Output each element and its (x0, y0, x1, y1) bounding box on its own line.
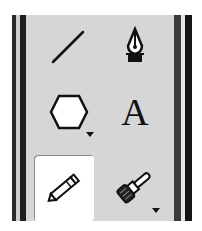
hexagon-icon (47, 92, 91, 132)
pen-tool-button[interactable] (106, 17, 164, 75)
line-tool-button[interactable] (40, 17, 98, 75)
line-icon (49, 26, 89, 66)
drawing-toolbar: A (10, 15, 194, 221)
polygon-tool-button[interactable] (40, 83, 98, 141)
paintbrush-icon (113, 164, 157, 208)
pencil-tool-button[interactable] (34, 155, 94, 221)
brush-tool-button[interactable] (106, 155, 164, 217)
toolbar-border-right-outer (185, 15, 192, 221)
flyout-arrow-icon[interactable] (86, 132, 94, 137)
toolbar-border-right-inner (174, 15, 181, 221)
tool-panel: A (26, 15, 174, 221)
pen-nib-icon (120, 26, 150, 66)
flyout-arrow-icon[interactable] (152, 208, 160, 213)
pencil-icon (42, 166, 86, 210)
text-tool-button[interactable]: A (106, 83, 164, 141)
text-icon: A (121, 93, 148, 131)
